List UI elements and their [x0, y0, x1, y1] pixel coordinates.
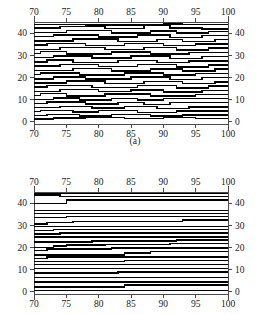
x-tick-label-bottom: 75: [62, 299, 72, 309]
worldline-path: [34, 31, 228, 33]
worldline-path: [34, 216, 228, 217]
x-tick-label-top: 90: [159, 177, 169, 187]
y-tick-label-right: 10: [235, 95, 245, 105]
y-tick-label-right: 10: [235, 265, 245, 275]
worldline-path: [34, 240, 228, 242]
worldline-path: [34, 26, 228, 29]
worldline-path: [34, 243, 228, 247]
y-tick-label-right: 20: [235, 243, 245, 253]
worldline-path: [34, 233, 228, 234]
x-tick-label-bottom: 85: [126, 299, 136, 309]
x-tick-label-bottom: 90: [159, 299, 169, 309]
y-tick-label-left: 20: [18, 73, 28, 83]
panel-caption-a: (a): [0, 136, 270, 146]
worldline-path: [34, 102, 228, 104]
worldline-figure: 7070757580808585909095951001000010102020…: [0, 0, 270, 314]
x-tick-label-bottom: 100: [221, 299, 236, 309]
y-tick-label-left: 20: [18, 243, 28, 253]
worldline-path: [34, 90, 228, 92]
worldline-path: [34, 229, 228, 230]
worldline-path: [34, 24, 228, 25]
worldline-path: [34, 220, 228, 224]
worldline-path: [34, 251, 228, 255]
worldline-path: [34, 285, 228, 287]
worldline-path: [34, 73, 228, 75]
worldline-path: [34, 195, 228, 196]
y-tick-label-left: 10: [18, 95, 28, 105]
y-tick-label-left: 0: [22, 287, 27, 297]
worldline-path: [34, 248, 228, 251]
worldline-path: [34, 114, 228, 116]
x-tick-label-bottom: 80: [94, 299, 104, 309]
plot-panel-b: 7070757580808585909095951001000010102020…: [0, 160, 270, 314]
x-tick-label-top: 100: [221, 177, 236, 187]
worldline-path: [34, 200, 228, 204]
worldline-series-group: [34, 24, 228, 119]
worldline-path: [34, 69, 228, 71]
worldline-path: [34, 43, 228, 45]
y-tick-label-left: 10: [18, 265, 28, 275]
worldline-path: [34, 56, 228, 58]
x-tick-label-top: 85: [126, 7, 136, 17]
y-tick-label-right: 30: [235, 51, 245, 61]
y-tick-label-right: 0: [235, 117, 240, 127]
worldline-path: [34, 39, 228, 41]
worldline-path: [34, 48, 228, 50]
y-tick-label-left: 30: [18, 221, 28, 231]
x-tick-label-top: 100: [221, 7, 236, 17]
worldline-path: [34, 106, 228, 108]
worldline-path: [34, 110, 228, 112]
worldline-series-group: [34, 193, 228, 290]
x-tick-label-bottom: 95: [191, 299, 201, 309]
x-tick-label-top: 70: [29, 7, 39, 17]
worldline-path: [34, 64, 228, 66]
y-tick-label-right: 0: [235, 287, 240, 297]
y-tick-label-left: 40: [18, 28, 28, 38]
worldline-path: [34, 257, 228, 258]
worldline-path: [34, 81, 228, 83]
worldline-path: [34, 272, 228, 273]
worldline-path: [34, 260, 228, 261]
worldline-path: [34, 117, 228, 119]
worldline-path: [34, 85, 228, 87]
x-tick-label-top: 85: [126, 177, 136, 187]
plot-canvas-b: 7070757580808585909095951001000010102020…: [0, 160, 270, 314]
y-tick-label-right: 30: [235, 221, 245, 231]
x-tick-label-top: 75: [62, 7, 72, 17]
worldline-path: [34, 52, 228, 54]
x-tick-label-top: 70: [29, 177, 39, 187]
x-tick-label-top: 95: [191, 177, 201, 187]
y-tick-label-right: 20: [235, 73, 245, 83]
y-tick-label-left: 0: [22, 117, 27, 127]
x-tick-label-top: 75: [62, 177, 72, 187]
worldline-path: [34, 98, 228, 100]
x-tick-label-top: 95: [191, 7, 201, 17]
y-tick-label-right: 40: [235, 28, 245, 38]
x-tick-label-top: 90: [159, 7, 169, 17]
y-tick-label-left: 40: [18, 198, 28, 208]
worldline-path: [34, 94, 228, 96]
x-tick-label-bottom: 70: [29, 299, 39, 309]
x-tick-label-top: 80: [94, 177, 104, 187]
worldline-path: [34, 77, 228, 79]
y-tick-label-left: 30: [18, 51, 28, 61]
x-tick-label-top: 80: [94, 7, 104, 17]
worldline-path: [34, 60, 228, 62]
y-tick-label-right: 40: [235, 198, 245, 208]
worldline-path: [34, 35, 228, 37]
